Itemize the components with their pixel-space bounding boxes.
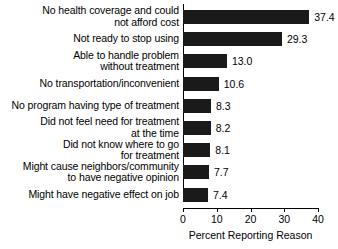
bar — [183, 143, 210, 157]
bar — [183, 10, 309, 24]
x-axis-tick — [318, 208, 319, 212]
category-label-line: to have negative opinion — [0, 172, 179, 184]
category-label: Might cause neighbors/communityto have n… — [0, 161, 179, 184]
bar-track: 8.1 — [183, 143, 338, 157]
bar-value-label: 37.4 — [314, 9, 334, 25]
category-label: Not ready to stop using — [0, 33, 179, 45]
category-label-line: Might have negative effect on job — [0, 189, 179, 201]
x-axis-tick-label: 20 — [239, 213, 263, 226]
bar-track: 7.7 — [183, 165, 338, 179]
x-axis-tick-label: 10 — [205, 213, 229, 226]
bar — [183, 165, 209, 179]
bar-value-label: 29.3 — [287, 31, 307, 47]
category-label-line: No transportation/inconvenient — [0, 78, 179, 90]
category-label: Able to handle problemwithout treatment — [0, 50, 179, 73]
category-label-line: Not ready to stop using — [0, 33, 179, 45]
bar-track: 13.0 — [183, 54, 338, 68]
plot-area: No health coverage and couldnot afford c… — [0, 0, 338, 249]
x-axis-title: Percent Reporting Reason — [183, 229, 318, 242]
category-label-line: No program having type of treatment — [0, 100, 179, 112]
bar — [183, 54, 227, 68]
x-axis-tick-label: 30 — [272, 213, 296, 226]
bar — [183, 99, 211, 113]
bar-track: 8.3 — [183, 99, 338, 113]
bar-value-label: 8.3 — [216, 98, 231, 114]
bar — [183, 32, 282, 46]
category-label: Did not feel need for treatmentat the ti… — [0, 116, 179, 139]
category-label-line: not afford cost — [0, 17, 179, 29]
x-axis-tick-label: 40 — [306, 213, 330, 226]
bar-track: 10.6 — [183, 77, 338, 91]
bar-track: 8.2 — [183, 121, 338, 135]
bar-track: 37.4 — [183, 10, 338, 24]
x-axis-tick — [251, 208, 252, 212]
category-label: Did not know where to gofor treatment — [0, 139, 179, 162]
x-axis-tick — [217, 208, 218, 212]
x-axis-tick-label: 0 — [171, 213, 195, 226]
bar — [183, 188, 208, 202]
bar — [183, 121, 211, 135]
bar-value-label: 8.1 — [215, 142, 230, 158]
bar-value-label: 10.6 — [224, 76, 244, 92]
bar-value-label: 7.4 — [213, 187, 228, 203]
x-axis-tick — [183, 208, 184, 212]
x-axis-tick — [284, 208, 285, 212]
category-label: No health coverage and couldnot afford c… — [0, 5, 179, 28]
bar — [183, 77, 219, 91]
bar-value-label: 13.0 — [232, 53, 252, 69]
category-label-line: without treatment — [0, 61, 179, 73]
bar-value-label: 8.2 — [216, 120, 231, 136]
category-label: No program having type of treatment — [0, 100, 179, 112]
category-label: Might have negative effect on job — [0, 189, 179, 201]
category-label: No transportation/inconvenient — [0, 78, 179, 90]
bar-track: 7.4 — [183, 188, 338, 202]
bar-chart: No health coverage and couldnot afford c… — [0, 0, 338, 249]
bar-track: 29.3 — [183, 32, 338, 46]
bar-value-label: 7.7 — [214, 164, 229, 180]
